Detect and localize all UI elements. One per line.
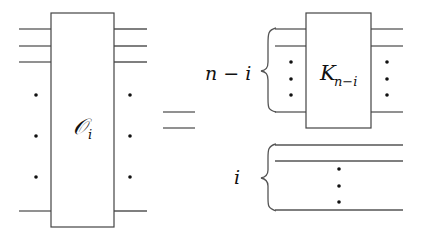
left-operator-block: 𝒪 i [19, 13, 147, 227]
circuit-diagram: 𝒪 i n − i K n−i i [0, 0, 424, 239]
brace-label-i: i [234, 166, 240, 188]
operator-k-subscript: n−i [334, 74, 357, 89]
top-group: n − i K n−i [205, 13, 403, 128]
bottom-group: i [234, 144, 403, 211]
bottom-brace [261, 144, 276, 211]
operator-o-subscript: i [88, 127, 92, 142]
brace-label-n-minus-i: n − i [205, 62, 251, 84]
top-brace [261, 28, 276, 112]
equals-sign [163, 112, 195, 128]
operator-k-box [306, 13, 371, 128]
